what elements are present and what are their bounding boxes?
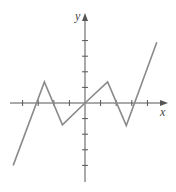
y-axis-arrow-icon <box>82 13 88 21</box>
x-axis-label: x <box>159 105 166 119</box>
axes <box>10 13 168 182</box>
y-axis-label: y <box>74 9 81 23</box>
function-graph: x y <box>0 0 176 192</box>
